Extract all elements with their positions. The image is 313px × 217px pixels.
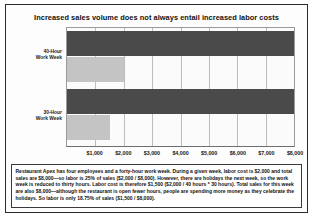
category-axis: 40-Hour Work Week 30-Hour Work Week xyxy=(12,27,66,147)
caption-box: Restaurant Apex has four employees and a… xyxy=(11,164,302,208)
value-axis-tick-label: $8,000 xyxy=(287,150,303,156)
value-axis: $1,000$2,000$3,000$4,000$5,000$6,000$7,0… xyxy=(6,147,307,161)
bar-sales-group-0 xyxy=(67,31,294,56)
value-axis-tick-label: $1,000 xyxy=(87,150,103,156)
figure-container: Increased sales volume does not always e… xyxy=(0,0,313,217)
caption-text: Restaurant Apex has four employees and a… xyxy=(16,168,298,202)
value-axis-tick-label: $2,000 xyxy=(115,150,131,156)
bar-sales-group-1 xyxy=(67,89,294,114)
value-axis-tick-label: $3,000 xyxy=(144,150,160,156)
category-label-40-hour-work-week: 40-Hour Work Week xyxy=(36,49,62,61)
bar-labor-group-1 xyxy=(67,115,110,140)
value-axis-spacer xyxy=(12,147,66,161)
value-axis-track: $1,000$2,000$3,000$4,000$5,000$6,000$7,0… xyxy=(66,147,295,161)
value-axis-tick-label: $5,000 xyxy=(201,150,217,156)
category-label-line-2: Work Week xyxy=(36,116,62,122)
plot-area xyxy=(66,27,295,147)
bar-labor-group-0 xyxy=(67,57,124,82)
chart-frame: Increased sales volume does not always e… xyxy=(5,4,308,213)
chart-title: Increased sales volume does not always e… xyxy=(6,14,307,22)
value-axis-tick-label: $4,000 xyxy=(172,150,188,156)
value-axis-tick-label: $7,000 xyxy=(258,150,274,156)
category-label-30-hour-work-week: 30-Hour Work Week xyxy=(36,110,62,122)
category-label-line-2: Work Week xyxy=(36,55,62,61)
plot-area-wrapper: 40-Hour Work Week 30-Hour Work Week xyxy=(6,27,307,147)
value-axis-tick-label: $6,000 xyxy=(230,150,246,156)
